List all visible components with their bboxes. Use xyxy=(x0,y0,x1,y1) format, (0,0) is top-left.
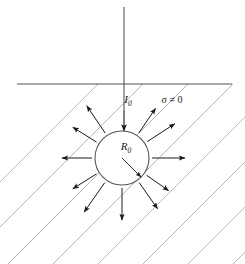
electrode-diagram: I0 R0 σ ≠ 0 xyxy=(0,0,245,264)
conductivity-label: σ ≠ 0 xyxy=(162,94,183,105)
figure-container: I0 R0 σ ≠ 0 xyxy=(0,0,245,264)
